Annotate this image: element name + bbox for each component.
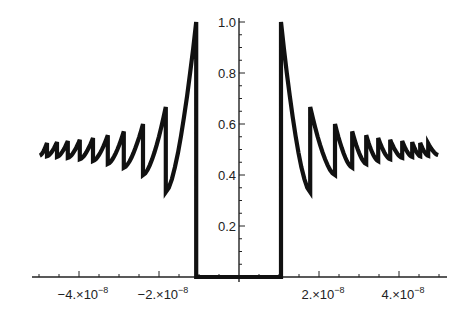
chart-plot: −4.×10−8−2.×10−82.×10−84.×10−8 0.20.40.6… (0, 0, 471, 325)
y-axis-ticks (239, 22, 245, 264)
y-tick-label: 0.8 (218, 66, 236, 81)
x-tick-label: 4.×10−8 (381, 285, 424, 302)
x-tick-label: −4.×10−8 (58, 285, 109, 302)
y-tick-label: 0.2 (218, 219, 236, 234)
y-axis-tick-labels: 0.20.40.60.81.0 (218, 15, 236, 234)
y-tick-label: 0.6 (218, 117, 236, 132)
x-axis-tick-labels: −4.×10−8−2.×10−82.×10−84.×10−8 (58, 285, 425, 302)
x-tick-label: 2.×10−8 (301, 285, 344, 302)
y-tick-label: 0.4 (218, 168, 236, 183)
x-tick-label: −2.×10−8 (138, 285, 189, 302)
y-tick-label: 1.0 (218, 15, 236, 30)
